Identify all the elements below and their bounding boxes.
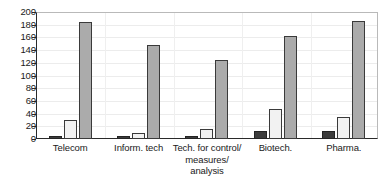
bar xyxy=(132,133,145,139)
bar xyxy=(269,109,282,139)
y-tick-mark xyxy=(32,139,36,140)
bar-chart: 200180160140120100806040200 TelecomInfor… xyxy=(0,0,390,191)
bar xyxy=(147,45,160,139)
bar-group xyxy=(310,12,378,139)
x-tick-label: Pharma. xyxy=(301,142,386,154)
bar xyxy=(64,120,77,139)
bar xyxy=(79,22,92,139)
bar-group xyxy=(173,12,241,139)
bar xyxy=(284,36,297,139)
bar xyxy=(117,136,130,139)
bar xyxy=(200,129,213,139)
bar xyxy=(215,60,228,139)
x-axis-labels: TelecomInform. techTech. for control/ me… xyxy=(36,142,378,191)
y-axis: 200180160140120100806040200 xyxy=(0,0,36,191)
bar-group xyxy=(36,12,104,139)
bar-group xyxy=(241,12,309,139)
bars-layer xyxy=(36,12,378,139)
bar xyxy=(337,117,350,139)
bar xyxy=(322,131,335,139)
bar-group xyxy=(104,12,172,139)
bar xyxy=(352,21,365,139)
bar xyxy=(49,136,62,139)
bar xyxy=(185,136,198,139)
bar xyxy=(254,131,267,139)
